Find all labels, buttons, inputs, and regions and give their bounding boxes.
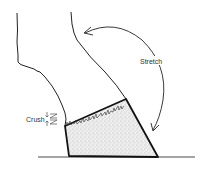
- hoof-shape: [65, 99, 158, 157]
- hoof-diagram: Stretch Crush: [0, 0, 206, 171]
- crush-label: Crush: [26, 116, 45, 123]
- leg-back-outline: [17, 13, 66, 126]
- stretch-label: Stretch: [140, 58, 162, 65]
- leg-front-outline: [71, 12, 126, 99]
- crush-icon: [46, 112, 58, 126]
